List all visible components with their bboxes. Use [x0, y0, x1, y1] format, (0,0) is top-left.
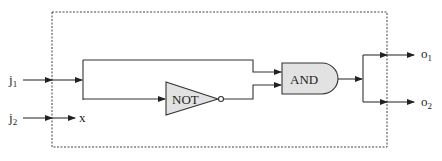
and-gate: AND [282, 63, 338, 94]
signal-x-label: x [79, 110, 86, 125]
output-o1-label: o1 [421, 46, 432, 63]
output-o1: o1 [363, 46, 432, 63]
logic-circuit-diagram: j1 NOT AND o1 o2 j2 x [0, 0, 442, 161]
wire-not-to-and [224, 85, 281, 99]
not-gate: NOT [166, 82, 224, 115]
not-gate-label: NOT [172, 92, 199, 107]
output-o2-label: o2 [421, 94, 432, 111]
wire-to-and-top [83, 60, 281, 72]
input-j1-label: j1 [8, 72, 17, 89]
input-j2-label: j2 [8, 110, 17, 127]
input-j1: j1 [8, 72, 82, 89]
input-j2: j2 x [8, 110, 86, 127]
output-o2: o2 [363, 94, 432, 111]
and-gate-label: AND [290, 72, 318, 87]
not-bubble-icon [219, 97, 224, 102]
